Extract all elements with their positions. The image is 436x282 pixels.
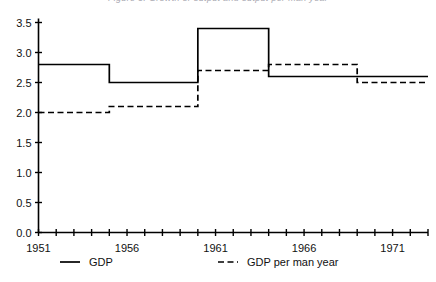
- x-axis-tick-label: 1966: [292, 242, 316, 254]
- x-axis-tick-label: 1961: [203, 242, 227, 254]
- y-axis-tick-label: 2.5: [16, 77, 31, 89]
- line-chart-canvas: 0.00.51.01.52.02.53.03.5 195119561961196…: [0, 0, 436, 282]
- y-axis-tick-label: 0.5: [16, 197, 31, 209]
- x-axis-tick-label: 1971: [380, 242, 404, 254]
- y-axis-tick-label: 1.5: [16, 137, 31, 149]
- chart-legend: GDPGDP per man year: [60, 256, 339, 268]
- y-axis-tick-label: 3.0: [16, 47, 31, 59]
- y-axis-tick-label: 2.0: [16, 107, 31, 119]
- x-axis: 19511956196119661971: [26, 229, 428, 254]
- x-axis-tick-label: 1951: [26, 242, 50, 254]
- legend-label: GDP: [89, 256, 113, 268]
- series-line-gdp-per-man-year: [39, 65, 429, 113]
- series-line-gdp: [39, 29, 429, 83]
- y-axis-tick-label: 1.0: [16, 167, 31, 179]
- y-axis: 0.00.51.01.52.02.53.03.5: [16, 17, 42, 239]
- data-series-group: [39, 29, 429, 113]
- chart-figure: Figure 3. Growth of output and output pe…: [0, 0, 436, 282]
- legend-label: GDP per man year: [247, 256, 339, 268]
- y-axis-tick-label: 3.5: [16, 17, 31, 29]
- y-axis-tick-label: 0.0: [16, 227, 31, 239]
- x-axis-tick-label: 1956: [115, 242, 139, 254]
